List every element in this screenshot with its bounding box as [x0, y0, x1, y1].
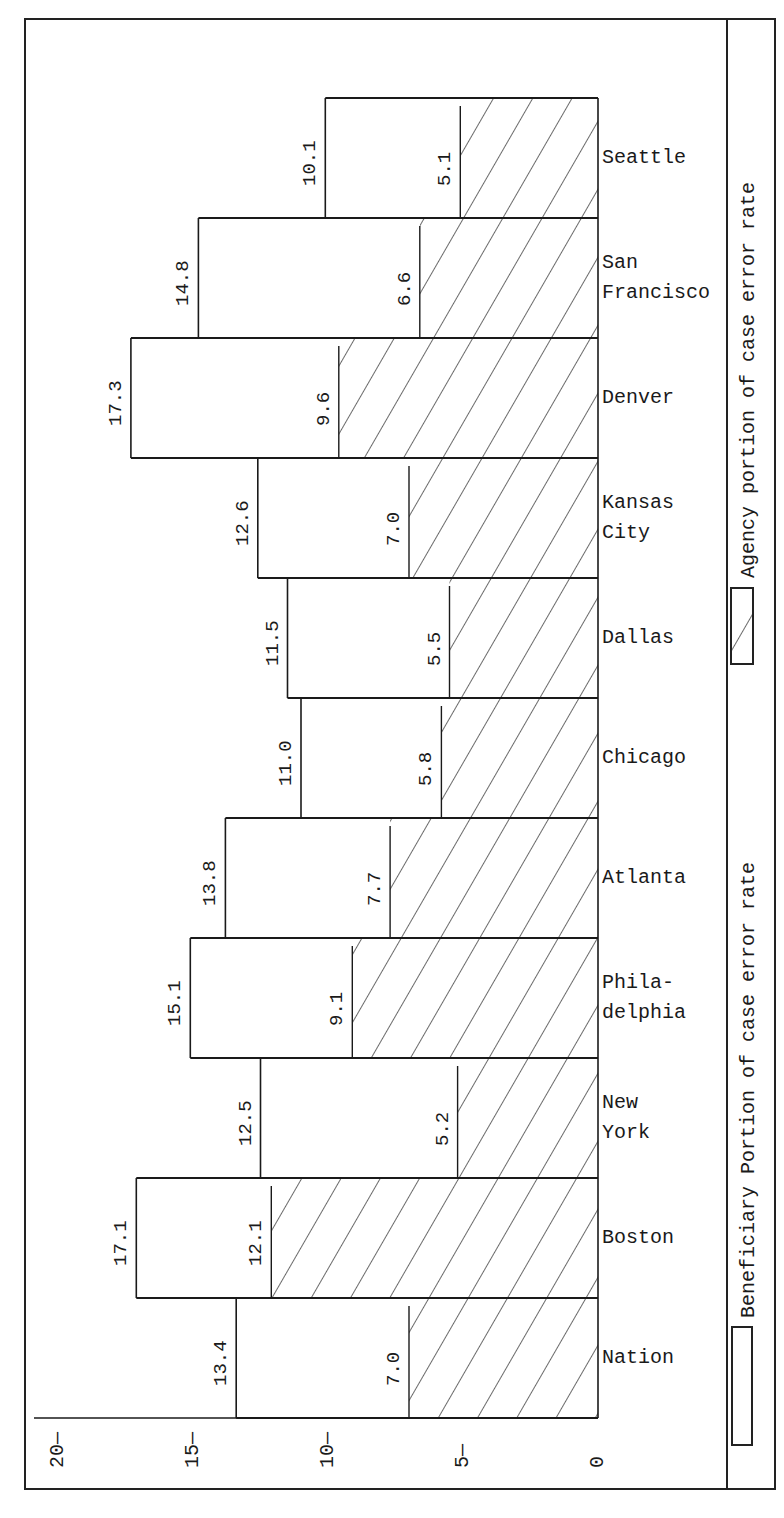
- axis-tick-label: 20—: [46, 1432, 69, 1468]
- legend-swatch-hatched: [729, 586, 757, 666]
- axis-tick-label: 15—: [181, 1432, 204, 1468]
- legend-swatch-blank: [731, 1326, 753, 1446]
- category-label: Denver: [602, 383, 674, 413]
- value-label-agency: 5.1: [434, 152, 456, 186]
- category-label: Seattle: [602, 143, 686, 173]
- category-label: Phila- delphia: [602, 968, 686, 1028]
- value-label-total: 15.1: [164, 980, 186, 1026]
- value-label-agency: 7.0: [383, 512, 405, 546]
- value-label-agency: 7.0: [383, 1352, 405, 1386]
- bar-agency-san-francisco: [420, 218, 598, 338]
- category-label: Nation: [602, 1343, 674, 1373]
- bar-agency-denver: [339, 338, 598, 458]
- value-label-total: 11.5: [262, 620, 284, 666]
- legend-label-agency: Agency portion of case error rate: [737, 182, 760, 578]
- value-label-total: 13.8: [199, 860, 221, 906]
- value-label-total: 12.6: [232, 500, 254, 546]
- category-label: San Francisco: [602, 248, 710, 308]
- axis-tick-label: 5—: [451, 1444, 474, 1468]
- value-label-total: 17.3: [105, 380, 127, 426]
- value-label-total: 14.8: [172, 260, 194, 306]
- category-label: New York: [602, 1088, 650, 1148]
- value-label-total: 13.4: [210, 1340, 232, 1386]
- category-label: Boston: [602, 1223, 674, 1253]
- bar-agency-boston: [271, 1178, 598, 1298]
- bar-agency-nation: [409, 1298, 598, 1418]
- bar-agency-kansas-city: [409, 458, 598, 578]
- value-label-total: 12.5: [235, 1100, 257, 1146]
- value-label-agency: 6.6: [394, 272, 416, 306]
- bar-agency-dallas: [450, 578, 599, 698]
- value-label-agency: 9.6: [313, 392, 335, 426]
- category-label: Atlanta: [602, 863, 686, 893]
- axis-tick-label: 10—: [316, 1432, 339, 1468]
- category-label: Dallas: [602, 623, 674, 653]
- value-label-agency: 5.8: [415, 752, 437, 786]
- value-label-total: 10.1: [299, 140, 321, 186]
- category-label: Chicago: [602, 743, 686, 773]
- value-label-agency: 9.1: [326, 992, 348, 1026]
- bar-agency-chicago: [441, 698, 598, 818]
- value-label-agency: 5.2: [432, 1112, 454, 1146]
- category-label: Kansas City: [602, 488, 674, 548]
- value-label-total: 17.1: [110, 1220, 132, 1266]
- bar-agency-seattle: [460, 98, 598, 218]
- value-label-agency: 5.5: [424, 632, 446, 666]
- value-label-agency: 12.1: [245, 1220, 267, 1266]
- bar-agency-atlanta: [390, 818, 598, 938]
- bar-agency-new-york: [458, 1058, 598, 1178]
- value-label-total: 11.0: [275, 740, 297, 786]
- axis-tick-label: 0: [586, 1456, 609, 1468]
- legend-label-beneficiary: Beneficiary Portion of case error rate: [737, 862, 760, 1318]
- bar-agency-philadelphia: [352, 938, 598, 1058]
- value-label-agency: 7.7: [364, 872, 386, 906]
